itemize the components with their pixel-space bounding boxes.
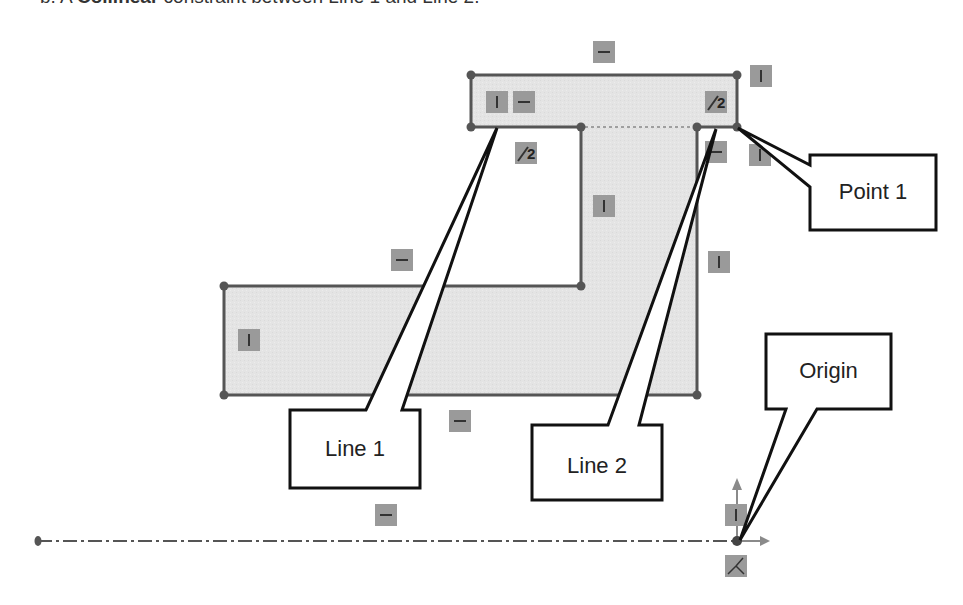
sketch-canvas[interactable]: 2 2 [0, 0, 963, 605]
callout-label-point-1: Point 1 [810, 179, 936, 205]
vertical-constraint-icon[interactable] [750, 65, 772, 87]
horizontal-constraint-icon[interactable] [391, 249, 413, 271]
equal-constraint-icon[interactable]: 2 [515, 142, 537, 164]
vertex[interactable] [467, 123, 476, 132]
fix-constraint-icon[interactable] [725, 555, 747, 577]
horizontal-constraint-icon[interactable] [375, 504, 397, 526]
horizontal-constraint-icon[interactable] [449, 410, 471, 432]
horizontal-constraint-icon[interactable] [513, 91, 535, 113]
vertex[interactable] [220, 282, 229, 291]
vertex[interactable] [467, 71, 476, 80]
vertex[interactable] [577, 123, 586, 132]
callout-label-line-2: Line 2 [532, 453, 662, 479]
vertical-constraint-icon[interactable] [708, 251, 730, 273]
callout-label-origin: Origin [766, 358, 891, 384]
centerline-endpoint[interactable] [35, 536, 42, 546]
svg-text:2: 2 [717, 94, 725, 111]
vertical-constraint-icon[interactable] [593, 195, 615, 217]
vertical-constraint-icon[interactable] [238, 329, 260, 351]
callout-label-line-1: Line 1 [290, 436, 420, 462]
horizontal-constraint-icon[interactable] [593, 41, 615, 63]
vertical-constraint-icon[interactable] [486, 91, 508, 113]
vertical-constraint-icon[interactable] [725, 504, 747, 526]
vertex[interactable] [577, 282, 586, 291]
vertex[interactable] [220, 391, 229, 400]
vertex[interactable] [693, 123, 702, 132]
svg-text:2: 2 [527, 145, 535, 162]
equal-constraint-icon[interactable]: 2 [705, 91, 727, 113]
vertex[interactable] [733, 71, 742, 80]
vertex[interactable] [693, 391, 702, 400]
